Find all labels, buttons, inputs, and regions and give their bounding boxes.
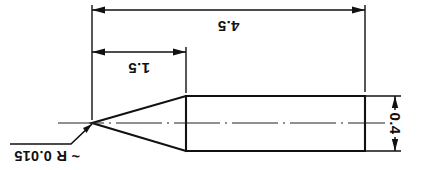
taper-length-right-arrow-icon (173, 49, 186, 56)
taper-length-left-arrow-icon (92, 49, 105, 56)
overall-length-label: 4.5 (218, 18, 240, 35)
diameter-bottom-arrow-icon (392, 139, 398, 151)
engineering-drawing: 4.5 1.5 0.4 ~ R 0.015 (0, 0, 425, 170)
taper-length-label: 1.5 (128, 60, 150, 77)
diameter-label-group: 0.4 (387, 113, 404, 135)
tip-radius-note-group: ~ R 0.015 (14, 148, 80, 164)
technical-drawing-canvas: 4.5 1.5 0.4 ~ R 0.015 (0, 0, 425, 170)
tip-radius-leader-line (10, 124, 92, 144)
tip-radius-note: ~ R 0.015 (14, 148, 80, 164)
overall-length-left-arrow-icon (92, 7, 105, 14)
overall-length-label-group: 4.5 (218, 18, 240, 35)
diameter-label: 0.4 (387, 113, 404, 135)
taper-length-label-group: 1.5 (128, 60, 150, 77)
overall-length-right-arrow-icon (352, 7, 365, 14)
diameter-top-arrow-icon (392, 96, 398, 108)
